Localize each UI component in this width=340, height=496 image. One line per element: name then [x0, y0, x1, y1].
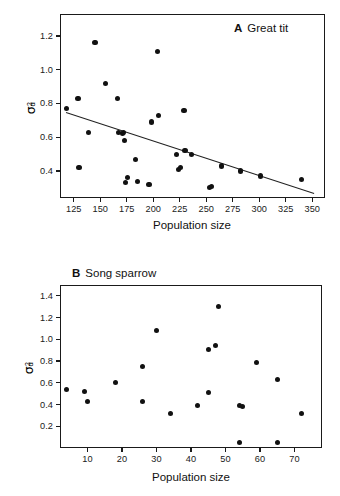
panel-b-title: Song sparrow [85, 267, 156, 279]
x-tick-label: 250 [198, 204, 214, 214]
x-tick-label: 325 [278, 204, 294, 214]
x-tick-label: 20 [117, 454, 127, 464]
x-tick-mark [312, 198, 313, 202]
panel-b-song-sparrow: BSong sparrow σ2d Population size 102030… [0, 240, 340, 496]
sigma-symbol-b: σ [21, 366, 36, 374]
scientific-figure: AGreat tit σ2d Population size 125150175… [0, 0, 340, 496]
x-tick-label: 225 [172, 204, 188, 214]
x-tick-label: 175 [119, 204, 135, 214]
x-tick-mark [121, 448, 122, 452]
x-tick-mark [153, 198, 154, 202]
x-tick-label: 125 [66, 204, 82, 214]
x-tick-mark [179, 198, 180, 202]
sigma-symbol-a: σ [23, 106, 38, 114]
x-tick-mark [190, 448, 191, 452]
y-tick-label: 1.0 [26, 65, 53, 75]
y-tick-label: 1.2 [26, 313, 53, 323]
x-tick-mark [294, 448, 295, 452]
x-tick-mark [73, 198, 74, 202]
y-tick-label: 0.6 [26, 132, 53, 142]
panel-a-x-axis-title: Population size [153, 219, 231, 231]
x-tick-label: 40 [186, 454, 196, 464]
x-tick-label: 150 [92, 204, 108, 214]
x-tick-mark [285, 198, 286, 202]
x-tick-label: 350 [304, 204, 320, 214]
x-tick-mark [87, 448, 88, 452]
y-tick-label: 1.0 [26, 334, 53, 344]
x-tick-label: 10 [82, 454, 92, 464]
panel-b-letter: B [72, 267, 80, 279]
x-tick-mark [206, 198, 207, 202]
sigma-subscript-a: d [28, 102, 37, 106]
x-tick-mark [156, 448, 157, 452]
x-tick-mark [100, 198, 101, 202]
x-tick-mark [259, 198, 260, 202]
panel-a-great-tit: AGreat tit σ2d Population size 125150175… [0, 0, 340, 240]
x-tick-label: 275 [225, 204, 241, 214]
plot-area-panel-b [60, 285, 322, 448]
plot-area-panel-a [60, 14, 325, 198]
y-tick-label: 0.4 [26, 166, 53, 176]
x-tick-mark [259, 448, 260, 452]
panel-a-title: Great tit [247, 22, 288, 34]
y-tick-label: 1.4 [26, 291, 53, 301]
y-tick-label: 0.2 [26, 421, 53, 431]
panel-b-caption: BSong sparrow [72, 267, 156, 279]
panel-a-letter: A [234, 22, 242, 34]
panel-a-y-axis-title: σ2d [22, 86, 38, 126]
x-tick-mark [225, 448, 226, 452]
x-tick-label: 200 [145, 204, 161, 214]
x-tick-mark [126, 198, 127, 202]
x-tick-label: 300 [251, 204, 267, 214]
panel-b-x-axis-title: Population size [152, 471, 230, 483]
x-tick-label: 60 [255, 454, 265, 464]
panel-b-y-axis-title: σ2d [20, 346, 36, 386]
x-tick-label: 30 [151, 454, 161, 464]
y-tick-label: 1.2 [26, 31, 53, 41]
x-tick-mark [232, 198, 233, 202]
sigma-subscript-b: d [26, 362, 35, 366]
x-tick-label: 70 [289, 454, 299, 464]
x-tick-label: 50 [220, 454, 230, 464]
y-tick-label: 0.4 [26, 400, 53, 410]
panel-a-caption: AGreat tit [234, 22, 288, 34]
